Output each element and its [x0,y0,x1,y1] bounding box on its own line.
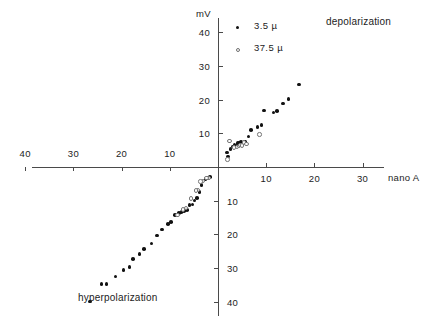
data-point-series-1 [193,199,197,203]
x-tick-right [314,163,315,167]
data-point-series-1 [275,109,279,113]
data-point-series-1 [256,125,260,129]
y-tick-lower [214,302,218,303]
legend-marker-open-circle-icon [236,48,240,52]
x-tick-left [73,167,74,171]
y-tick-label-upper: 30 [186,60,210,71]
y-axis-title: mV [196,8,211,19]
x-tick-label-right: 20 [309,173,320,184]
y-tick-label-lower: 20 [227,229,238,240]
hyperpolarization-annotation: hyperpolarization [78,292,158,303]
x-axis-title: nano A [388,172,419,183]
data-point-series-2 [189,196,193,200]
data-point-series-1 [297,83,301,87]
x-tick-right [363,163,364,167]
x-tick-label-left: 30 [68,148,79,159]
data-point-series-2 [194,188,198,192]
y-tick-label-lower: 30 [227,263,238,274]
data-point-series-1 [200,183,204,187]
data-point-series-1 [160,228,164,232]
y-tick-label-lower: 10 [227,195,238,206]
x-tick-label-right: 30 [357,173,368,184]
y-tick-upper [219,32,223,33]
y-tick-lower [214,201,218,202]
data-point-series-1 [128,265,132,269]
data-point-series-1 [142,247,146,251]
data-point-series-1 [191,203,195,207]
y-tick-label-lower: 40 [227,296,238,307]
data-point-series-2 [175,213,179,217]
x-tick-label-right: 10 [261,173,272,184]
data-point-series-1 [262,109,266,113]
legend-entry-1: 37.5 µ [236,40,326,62]
y-tick-lower [214,268,218,269]
x-axis-line [32,167,384,168]
x-tick-left [122,167,123,171]
data-point-series-1 [247,135,251,139]
y-tick-label-upper: 40 [186,27,210,38]
data-point-series-1 [281,102,285,106]
y-tick-lower [214,234,218,235]
data-point-series-1 [114,275,118,279]
legend-label: 3.5 µ [254,20,277,31]
data-point-series-1 [155,234,159,238]
data-point-series-1 [150,242,154,246]
legend-marker-filled-circle-icon [236,26,239,29]
data-point-series-1 [122,268,126,272]
legend-entry-0: 3.5 µ [236,18,326,40]
x-tick-right [266,163,267,167]
legend: 3.5 µ 37.5 µ [236,18,326,62]
y-tick-label-upper: 10 [186,128,210,139]
data-point-series-1 [260,123,264,127]
x-tick-left [25,167,26,171]
data-point-series-2 [225,157,229,161]
data-point-series-1 [166,222,170,226]
y-axis-line [218,18,219,316]
data-point-series-1 [138,252,142,256]
y-tick-upper [219,66,223,67]
x-tick-left [170,167,171,171]
data-point-series-1 [131,257,135,261]
data-point-series-1 [188,203,192,207]
data-point-series-1 [105,282,109,286]
x-tick-label-left: 20 [116,148,127,159]
y-tick-label-upper: 20 [186,94,210,105]
data-point-series-1 [287,97,291,101]
y-tick-upper [219,100,223,101]
data-point-series-2 [198,179,202,183]
x-tick-label-left: 10 [164,148,175,159]
depolarization-annotation: depolarization [326,16,391,27]
x-tick-label-left: 40 [20,148,31,159]
data-point-series-2 [244,142,248,146]
data-point-series-2 [257,132,261,136]
iv-curve-figure: 403020101020301020304010203040 mV nano A… [0,0,425,324]
y-tick-upper [219,133,223,134]
data-point-series-1 [249,128,253,132]
data-point-series-1 [225,151,229,155]
data-point-series-2 [227,139,231,143]
legend-label: 37.5 µ [254,42,283,53]
data-point-series-1 [100,282,104,286]
